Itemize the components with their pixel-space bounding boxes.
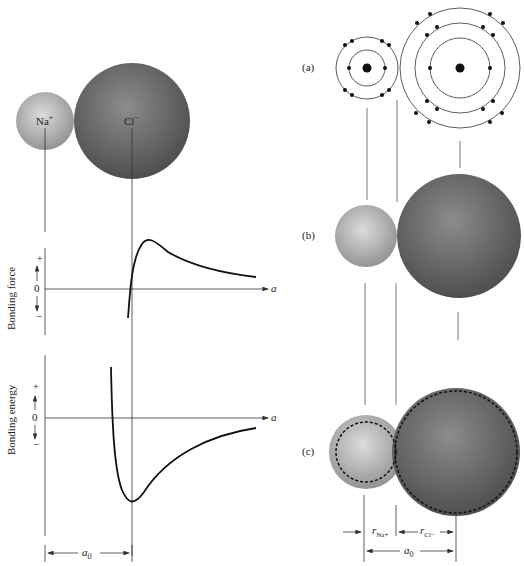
cl-sphere-c [392, 388, 520, 516]
ionic-bonding-diagram: Na+ Cl− a + 0 − Bonding force a + 0 − Bo… [0, 0, 524, 566]
force-zero: 0 [34, 282, 40, 294]
force-curve [128, 240, 256, 318]
force-plus: + [37, 253, 43, 264]
na-sphere-c [329, 415, 403, 489]
label-a: (a) [302, 61, 315, 74]
na-sphere-b [335, 205, 397, 267]
energy-minus: − [33, 438, 39, 450]
na-bohr-model [336, 37, 398, 99]
a0-dimension-left: a0 [45, 545, 132, 562]
svg-text:a0: a0 [404, 544, 414, 559]
force-x-label: a [271, 282, 277, 294]
svg-text:rCl−: rCl− [420, 524, 435, 539]
energy-curve [111, 367, 256, 502]
cl-bohr-model [400, 8, 520, 128]
bonding-force-plot: a + 0 − Bonding force [5, 240, 277, 335]
svg-text:rNa+: rNa+ [372, 524, 388, 539]
label-c: (c) [302, 445, 315, 458]
energy-y-label: Bonding energy [5, 384, 17, 455]
energy-zero: 0 [32, 411, 38, 423]
connector-lines-bc [365, 283, 458, 405]
bonding-energy-plot: a + 0 − Bonding energy [5, 355, 277, 536]
label-b: (b) [302, 229, 315, 242]
cl-sphere-b [397, 174, 521, 298]
force-y-label: Bonding force [5, 267, 17, 330]
energy-x-label: a [271, 411, 277, 423]
energy-plus: + [33, 381, 39, 392]
force-minus: − [36, 310, 42, 322]
svg-text:a0: a0 [82, 546, 92, 561]
